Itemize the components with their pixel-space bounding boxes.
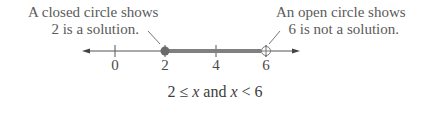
tick-label-6: 6 [256, 57, 276, 74]
tick-label-2: 2 [155, 57, 175, 74]
ineq-var2: x [230, 83, 237, 100]
tick-label-0: 0 [105, 57, 125, 74]
inequality-statement: 2 ≤ x and x < 6 [0, 83, 430, 101]
ineq-part2: and [199, 83, 230, 100]
left-arrow-icon [82, 49, 90, 54]
ineq-part1: 2 ≤ [167, 83, 192, 100]
ineq-part3: < 6 [238, 83, 263, 100]
closed-circle-icon [161, 47, 170, 56]
closed-pointer-line [148, 31, 160, 44]
open-pointer-line [269, 31, 280, 44]
tick-label-4: 4 [206, 57, 226, 74]
right-arrow-icon [292, 49, 300, 54]
